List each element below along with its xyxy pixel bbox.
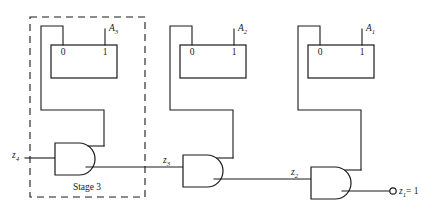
ff-a1-terminal-1: 1 [360, 47, 365, 57]
logic-diagram-canvas: 0 1 A3 z4 Stage 3 0 1 A2 z3 0 1 A1 z2 z1… [0, 0, 441, 215]
circuit-schematic: 0 1 A3 z4 Stage 3 0 1 A2 z3 0 1 A1 z2 z1… [0, 0, 441, 215]
ff-a1-terminal-0: 0 [318, 47, 323, 57]
label-z2: z2 [290, 167, 299, 179]
and-gate-2 [183, 155, 223, 187]
ff-a3-terminal-0: 0 [61, 47, 66, 57]
label-a2: A2 [237, 23, 248, 35]
label-stage-3: Stage 3 [73, 182, 101, 192]
and-gate-1 [311, 167, 351, 199]
output-terminal-circle [390, 188, 396, 194]
label-a1: A1 [365, 23, 375, 35]
label-z1-output: z1= 1 [398, 186, 419, 198]
and-gate-3 [55, 143, 95, 175]
ff-a2-terminal-1: 1 [232, 47, 237, 57]
ff-a3-terminal-1: 1 [103, 47, 108, 57]
label-z4: z4 [11, 150, 20, 162]
label-a3: A3 [108, 23, 119, 35]
ff-a2-terminal-0: 0 [190, 47, 195, 57]
label-z3: z3 [162, 155, 171, 167]
feedback-wire-stage-3 [41, 26, 104, 146]
